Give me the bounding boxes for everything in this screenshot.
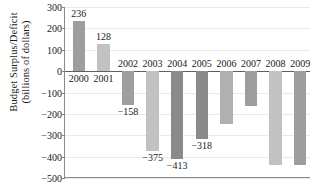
x-axis-label-2005: 2005 [192,58,212,69]
x-axis-label-2008: 2008 [266,58,286,69]
bar-2007 [245,71,258,105]
bar-2001 [97,44,110,71]
y-axis-tick-mark [61,114,65,115]
y-axis-tick-mark [61,7,65,8]
gridline [65,178,310,179]
bar-2006 [220,71,233,124]
gridline [65,7,310,8]
y-axis-tick-label: −100 [26,87,62,98]
x-axis-label-2002: 2002 [118,58,138,69]
bar-2000 [73,21,86,71]
y-axis-tick-mark [61,28,65,29]
bar-2004 [171,71,184,159]
bar-value-label-2003: −375 [142,152,163,163]
x-axis-label-2000: 2000 [69,73,89,84]
bar-value-label-2004: −413 [167,160,188,171]
y-axis-tick-label: 300 [26,2,62,13]
y-axis-tick-mark [61,93,65,94]
x-axis-line [65,177,310,178]
plot-inner: 23620001282001−1582002−3752003−4132004−3… [65,7,310,178]
bar-2009 [294,71,307,165]
y-axis-tick-mark [61,50,65,51]
y-axis-tick-label: 0 [26,66,62,77]
gridline [65,28,310,29]
bar-2003 [146,71,159,151]
y-axis-tick-mark [61,135,65,136]
y-axis-tick-mark [61,157,65,158]
y-axis-tick-label: −400 [26,151,62,162]
y-axis-tick-label: 100 [26,44,62,55]
bar-value-label-2002: −158 [118,106,139,117]
bar-2002 [122,71,135,105]
y-axis-title-line-1: Budget Surplus/Deficit [8,0,20,132]
x-axis-label-2006: 2006 [216,58,236,69]
bar-value-label-2000: 236 [71,8,86,19]
y-axis-tick-label: −200 [26,108,62,119]
bar-value-label-2001: 128 [96,31,111,42]
y-axis-tick-mark [61,178,65,179]
bar-2008 [269,71,282,165]
bar-value-label-2005: −318 [191,140,212,151]
y-axis-tick-label: 200 [26,23,62,34]
x-axis-label-2009: 2009 [290,58,310,69]
x-axis-label-2007: 2007 [241,58,261,69]
y-axis-tick-label: −500 [26,173,62,184]
bar-2005 [196,71,209,139]
chart-figure: Budget Surplus/Deficit (billions of doll… [0,0,316,195]
plot-area: 23620001282001−1582002−3752003−4132004−3… [64,7,310,178]
y-axis-tick-labels: 3002001000−100−200−300−400−500 [26,0,62,195]
x-axis-label-2003: 2003 [143,58,163,69]
y-axis-tick-label: −300 [26,130,62,141]
x-axis-label-2001: 2001 [93,73,113,84]
x-axis-label-2004: 2004 [167,58,187,69]
